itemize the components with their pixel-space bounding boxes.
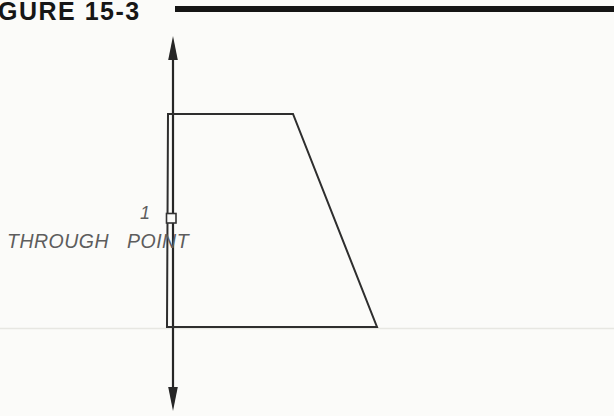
through-point-number-label: 1: [130, 203, 150, 224]
through-point-label: THROUGH POINT: [7, 230, 189, 253]
through-point-marker: [167, 214, 177, 224]
trapezoid-outline: [167, 114, 377, 327]
geometry-drawing: [0, 0, 614, 416]
figure-page: GURE 15-3 1 THROUGH POINT: [0, 0, 614, 416]
arrow-up-icon: [168, 36, 178, 60]
arrow-down-icon: [168, 387, 178, 411]
